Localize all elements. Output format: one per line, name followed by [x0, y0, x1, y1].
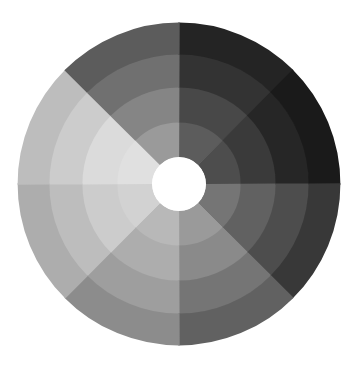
- radial-chart-figure: [0, 0, 360, 373]
- radial-chart-svg: [0, 0, 360, 373]
- center-hole: [152, 157, 206, 211]
